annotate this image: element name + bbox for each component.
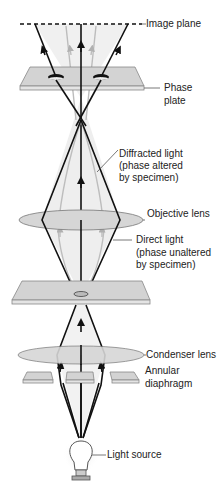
specimen-slide <box>12 281 150 304</box>
label-direct-3: by specimen) <box>136 259 195 271</box>
label-diffracted-2: (phase altered <box>119 160 183 172</box>
label-phase-plate-2: plate <box>164 95 186 107</box>
label-direct-1: Direct light <box>136 234 183 246</box>
annular-diaphragm <box>23 372 139 383</box>
label-objective-lens: Objective lens <box>147 208 210 220</box>
label-diffracted-3: by specimen) <box>119 172 178 184</box>
specimen <box>74 292 88 297</box>
label-light-source: Light source <box>107 449 161 461</box>
label-image-plane: Image plane <box>146 18 201 30</box>
label-phase-plate-1: Phase <box>164 82 192 94</box>
label-condenser-lens: Condenser lens <box>146 349 216 361</box>
label-direct-2: (phase unaltered <box>136 247 211 259</box>
label-diffracted-1: Diffracted light <box>119 148 183 160</box>
light-bulb-icon <box>63 437 99 480</box>
phase-plate <box>20 67 160 90</box>
label-annular-2: diaphragm <box>145 378 192 390</box>
label-annular-1: Annular <box>145 365 179 377</box>
